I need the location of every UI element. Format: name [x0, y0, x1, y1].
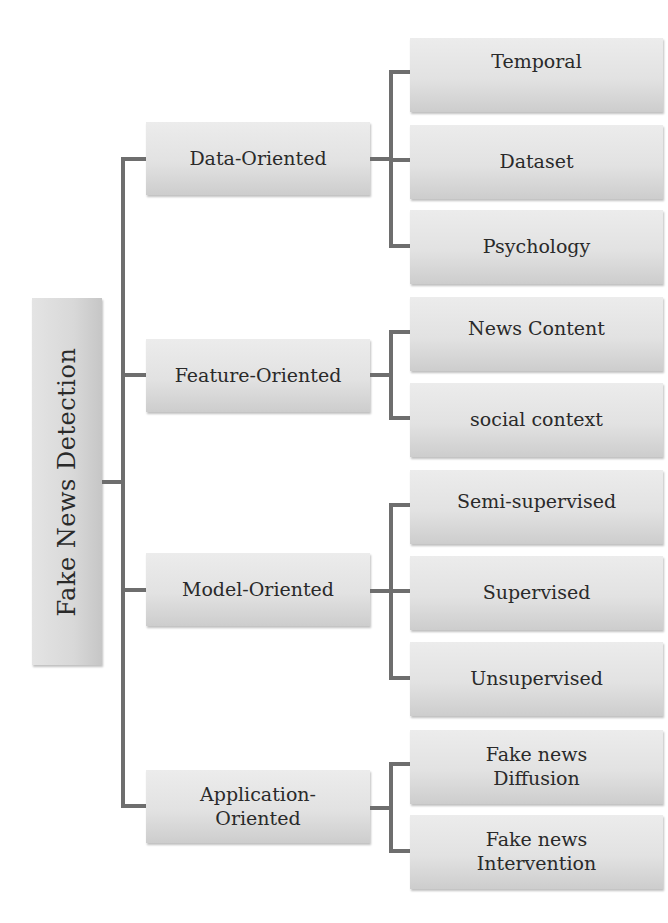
node-label: Model-Oriented — [182, 578, 334, 602]
root-node-fake-news-detection: Fake News Detection — [32, 298, 102, 665]
node-semi-supervised: Semi-supervised — [410, 470, 663, 544]
connector-application-oriented — [121, 804, 146, 808]
connector-feature-oriented — [121, 373, 146, 377]
node-application-oriented: Application- Oriented — [146, 770, 370, 843]
bracket-arm-social-context — [389, 416, 410, 420]
bracket-arm-semi-supervised — [389, 503, 410, 507]
bracket-arm-supervised — [389, 589, 410, 593]
node-feature-oriented: Feature-Oriented — [146, 339, 370, 412]
node-temporal: Temporal — [410, 38, 663, 112]
node-label: Semi-supervised — [457, 490, 616, 514]
node-social-context: social context — [410, 383, 663, 457]
node-label: Temporal — [491, 50, 582, 74]
node-supervised: Supervised — [410, 556, 663, 630]
level1-spine — [121, 157, 125, 808]
node-label: Data-Oriented — [189, 147, 326, 171]
connector-model-oriented — [121, 588, 146, 592]
bracket-arm-news-content — [389, 330, 410, 334]
node-label: Application- Oriented — [200, 783, 316, 831]
node-model-oriented: Model-Oriented — [146, 553, 370, 626]
node-fake-news-intervention: Fake news Intervention — [410, 815, 663, 889]
node-label: News Content — [468, 317, 605, 341]
node-label: Fake news Diffusion — [486, 743, 588, 791]
bracket-arm-intervention — [389, 849, 410, 853]
bracket-spine-application — [389, 762, 393, 853]
node-fake-news-diffusion: Fake news Diffusion — [410, 730, 663, 804]
bracket-arm-dataset — [389, 158, 410, 162]
node-dataset: Dataset — [410, 125, 663, 199]
node-label: Feature-Oriented — [175, 364, 342, 388]
bracket-arm-diffusion — [389, 762, 410, 766]
bracket-arm-psychology — [389, 244, 410, 248]
bracket-spine-feature — [389, 330, 393, 420]
bracket-arm-unsupervised — [389, 676, 410, 680]
bracket-arm-temporal — [389, 70, 410, 74]
root-label: Fake News Detection — [52, 347, 82, 616]
node-psychology: Psychology — [410, 210, 663, 284]
node-unsupervised: Unsupervised — [410, 642, 663, 716]
node-label: Dataset — [499, 150, 573, 174]
node-label: Psychology — [483, 235, 591, 259]
node-label: Fake news Intervention — [477, 828, 596, 876]
node-label: social context — [470, 408, 603, 432]
node-data-oriented: Data-Oriented — [146, 122, 370, 195]
connector-data-oriented — [121, 157, 146, 161]
node-news-content: News Content — [410, 297, 663, 371]
node-label: Supervised — [483, 581, 591, 605]
node-label: Unsupervised — [470, 667, 603, 691]
